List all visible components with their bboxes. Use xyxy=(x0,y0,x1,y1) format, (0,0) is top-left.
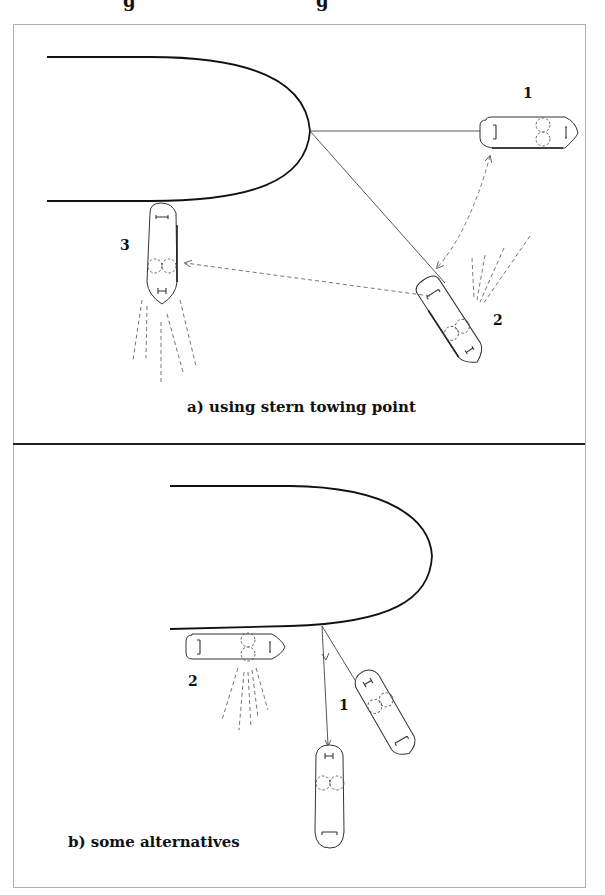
tug-label-3-a: 3 xyxy=(120,237,130,253)
tug-2-b xyxy=(186,633,285,661)
move-arrow-1-2 xyxy=(437,156,490,268)
tug-3-wash xyxy=(133,300,196,382)
tug-2-a xyxy=(413,272,489,369)
tug-3-a xyxy=(147,203,177,304)
tug-2-wash xyxy=(472,236,530,304)
tug-1b-diagonal xyxy=(351,665,421,760)
towline-b1 xyxy=(322,626,328,745)
tug-1b-vertical xyxy=(315,745,344,848)
caption-panel-b: b) some alternatives xyxy=(68,833,240,851)
diagram-figure: g g xyxy=(0,0,605,895)
tug-label-2-a: 2 xyxy=(493,312,503,328)
panel-b xyxy=(170,486,432,848)
panel-divider xyxy=(13,443,585,445)
tug-label-1-a: 1 xyxy=(523,85,533,101)
diagram-canvas xyxy=(0,0,605,895)
panel-a xyxy=(47,57,578,382)
ship-hull-a xyxy=(47,57,310,201)
tug-label-2-b: 2 xyxy=(188,673,198,689)
tug-label-1-b: 1 xyxy=(339,697,349,713)
tug-2b-wash xyxy=(222,668,268,730)
ship-hull-b xyxy=(170,486,432,629)
towline-tug2 xyxy=(310,131,445,283)
caption-panel-a: a) using stern towing point xyxy=(187,398,416,416)
tug-1-a xyxy=(480,117,578,148)
move-arrow-2-3 xyxy=(185,263,430,296)
